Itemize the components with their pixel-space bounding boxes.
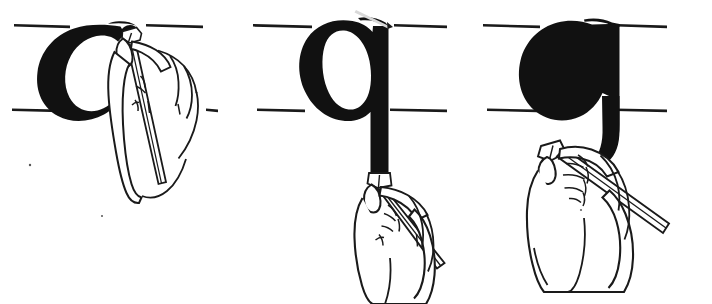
guideline-segment	[617, 24, 667, 28]
illustration-page: Three black-and-white line drawings of a…	[0, 0, 712, 304]
panel-oblique-pen-angle	[474, 0, 712, 304]
guideline-segment	[390, 108, 447, 112]
stray-mark-panel-1	[29, 164, 103, 217]
guideline-segment	[483, 24, 540, 28]
guideline-segment	[487, 108, 537, 112]
panel-3-drawing	[474, 0, 712, 304]
guideline-segment	[394, 24, 447, 28]
pen-nib-slit-panel-2	[379, 175, 380, 187]
guideline-segment	[14, 24, 70, 28]
stray-mark-panel-3	[580, 209, 582, 211]
panel-steep-pen-angle	[238, 0, 474, 304]
guideline-segment	[146, 24, 203, 28]
guideline-segment	[615, 108, 667, 112]
guideline-segment	[257, 108, 305, 112]
panel-1-drawing	[0, 0, 238, 304]
letterform-g	[519, 19, 620, 162]
letterform-q	[299, 10, 393, 175]
panel-shallow-pen-angle	[0, 0, 238, 304]
panel-2-drawing	[238, 0, 474, 304]
guidelines-panel-2	[253, 24, 447, 112]
guideline-segment	[206, 108, 218, 112]
guideline-segment	[253, 24, 312, 28]
